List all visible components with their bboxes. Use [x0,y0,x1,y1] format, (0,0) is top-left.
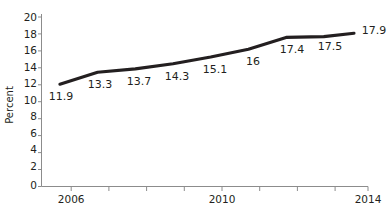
y-axis-ticks [38,17,42,187]
y-tick-label: 8 [30,110,37,122]
point-label: 11.9 [49,90,74,103]
point-label: 17.4 [280,43,305,56]
point-label: 17.5 [318,40,343,53]
point-label: 13.7 [127,75,152,88]
point-label: 14.3 [165,70,190,83]
series-line-percent [60,33,354,84]
y-axis-tick-labels: 20 18 16 14 12 10 8 6 4 2 0 [24,11,38,191]
y-tick-label: 16 [24,44,38,56]
y-tick-label: 0 [30,179,37,191]
x-tick-label: 2006 [58,193,85,205]
y-axis-title: Percent [4,86,15,124]
y-tick-label: 10 [24,94,37,106]
x-tick-label: 2010 [209,193,236,205]
y-tick-label: 18 [24,28,37,40]
point-label: 16 [246,55,260,68]
y-tick-label: 20 [24,11,37,23]
point-label: 15.1 [203,63,228,76]
point-label: 13.3 [88,78,113,91]
point-label: 17.9 [362,24,387,37]
chart-canvas: Percent 20 18 16 14 12 10 8 6 4 2 0 [0,0,391,213]
y-tick-label: 4 [30,143,37,155]
x-axis-tick-labels: 2006 2010 2014 [58,193,382,205]
line-chart: Percent 20 18 16 14 12 10 8 6 4 2 0 [0,0,391,213]
y-tick-label: 6 [30,127,37,139]
y-tick-label: 12 [24,77,37,89]
y-tick-label: 2 [30,160,37,172]
y-tick-label: 14 [24,61,38,73]
x-tick-label: 2014 [355,193,382,205]
x-axis-ticks [71,187,368,192]
